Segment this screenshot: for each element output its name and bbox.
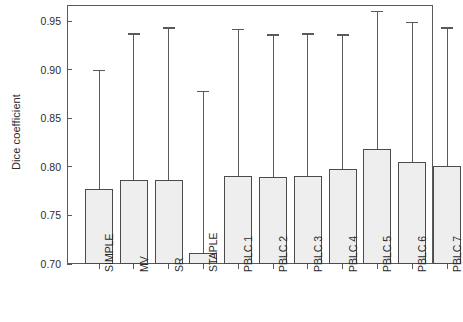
error-bar-cap [406,22,418,23]
error-bar-line [412,22,413,162]
error-bar-line [238,29,239,175]
error-bar-line [377,11,378,149]
y-axis-tick-label: 0.85 [27,112,61,124]
x-axis-tick-label: PBLC 2 [277,236,289,272]
error-bar-line [203,91,204,253]
bar [155,180,183,264]
bar [120,180,148,264]
error-bar-line [342,34,343,169]
error-bar-cap [371,11,383,12]
y-axis-title: Dice coefficient [10,72,22,192]
error-bar-cap [232,29,244,30]
error-bar-cap [93,70,105,71]
error-bar-cap [302,33,314,34]
error-bar-line [307,33,308,175]
y-axis-tick-mark [67,264,72,265]
x-axis-tick-mark [238,264,239,269]
x-axis-tick-label: PBLC 6 [416,236,428,272]
error-bar-line [447,27,448,166]
error-bar-cap [163,27,175,28]
y-axis-tick-label: 0.80 [27,161,61,173]
error-bar-line [273,34,274,176]
y-axis-tick-label: 0.90 [27,64,61,76]
y-axis-tick-mark [67,69,72,70]
x-axis-tick-mark [168,264,169,269]
x-axis-tick-label: PBLC 7 [451,236,463,272]
x-axis-tick-mark [99,264,100,269]
error-bar-cap [128,33,140,34]
x-axis-tick-label: PBLC 4 [347,236,359,272]
x-axis-tick-label: SIMPLE [103,233,115,272]
x-axis-tick-mark [447,264,448,269]
x-axis-tick-mark [377,264,378,269]
x-axis-tick-label: PBLC 3 [312,236,324,272]
error-bar-cap [197,91,209,92]
y-axis-tick-label: 0.70 [27,258,61,270]
x-axis-tick-label: MV [138,256,150,272]
error-bar-cap [441,27,453,28]
y-axis-tick-mark [67,166,72,167]
x-axis-tick-mark [412,264,413,269]
x-axis-tick-label: STAPLE [207,233,219,273]
error-bar-line [168,27,169,179]
x-axis-tick-mark [133,264,134,269]
y-axis-tick-label: 0.75 [27,209,61,221]
error-bar-line [133,33,134,180]
y-axis-tick-mark [67,21,72,22]
x-axis-tick-mark [203,264,204,269]
x-axis-tick-mark [342,264,343,269]
x-axis-tick-label: PBLC 5 [381,236,393,272]
y-axis-tick-mark [67,215,72,216]
x-axis-tick-label: PBLC 1 [242,236,254,272]
x-axis-tick-mark [307,264,308,269]
error-bar-line [99,70,100,189]
x-axis-tick-label: SR [173,257,185,272]
y-axis-tick-mark [67,118,72,119]
error-bar-cap [337,34,349,35]
error-bar-cap [267,34,279,35]
x-axis-tick-mark [273,264,274,269]
y-axis-tick-label: 0.95 [27,15,61,27]
